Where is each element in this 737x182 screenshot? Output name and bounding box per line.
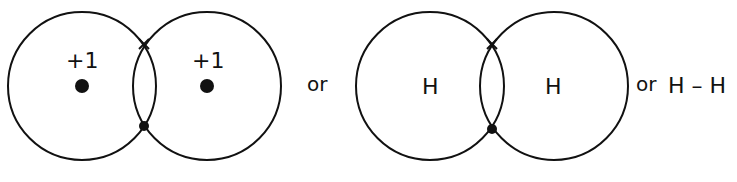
nucleus-right	[200, 79, 214, 93]
structural-formula: H – H	[668, 75, 726, 97]
electron-cross-2	[487, 39, 497, 49]
or-text-2: or	[636, 74, 656, 94]
charge-label-right: +1	[192, 50, 224, 72]
h2-bond-diagram: +1 +1 or H H or H – H	[0, 0, 737, 182]
charge-label-left: +1	[66, 50, 98, 72]
diagram-drawing	[0, 0, 737, 182]
atom-label-h-left: H	[422, 76, 439, 98]
electron-dot-2	[487, 124, 497, 134]
electron-dot-1	[139, 121, 149, 131]
or-text-1: or	[307, 74, 327, 94]
nucleus-left	[75, 79, 89, 93]
atom-label-h-right: H	[545, 76, 562, 98]
